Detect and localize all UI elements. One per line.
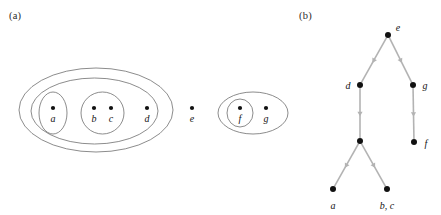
node-a-label: a — [331, 200, 336, 211]
point-e-label: e — [190, 113, 194, 124]
node-bc-label: b, c — [380, 200, 394, 211]
node-mid — [357, 138, 363, 144]
point-c-label: c — [109, 113, 113, 124]
point-b — [92, 106, 96, 110]
node-d — [357, 82, 363, 88]
node-e-label: e — [396, 22, 400, 33]
point-f-label: f — [239, 113, 242, 124]
node-f-label: f — [425, 138, 428, 149]
edge-g-f-arrowhead-icon — [411, 112, 416, 117]
point-g-label: g — [264, 113, 269, 124]
node-a — [330, 186, 336, 192]
node-bc — [384, 186, 390, 192]
point-a-label: a — [51, 113, 56, 124]
node-d-label: d — [346, 80, 351, 91]
point-e — [190, 106, 194, 110]
panel-a-ellipses — [19, 68, 288, 152]
figure-root: (a) (b) abcdefgedgfab, c — [0, 0, 441, 215]
second-group — [31, 78, 158, 144]
figure-canvas — [0, 0, 441, 215]
point-g — [264, 106, 268, 110]
point-d-label: d — [145, 113, 150, 124]
point-c — [109, 106, 113, 110]
panel-b-edges — [334, 38, 416, 187]
point-f — [238, 106, 242, 110]
group-bc — [81, 92, 124, 134]
node-g-label: g — [423, 80, 428, 91]
point-d — [145, 106, 149, 110]
point-b-label: b — [92, 113, 97, 124]
node-f — [411, 139, 417, 145]
outer-group — [19, 68, 173, 152]
node-e — [385, 32, 391, 38]
node-g — [410, 82, 416, 88]
point-a — [51, 106, 55, 110]
edge-d-mid-arrowhead-icon — [357, 112, 362, 117]
